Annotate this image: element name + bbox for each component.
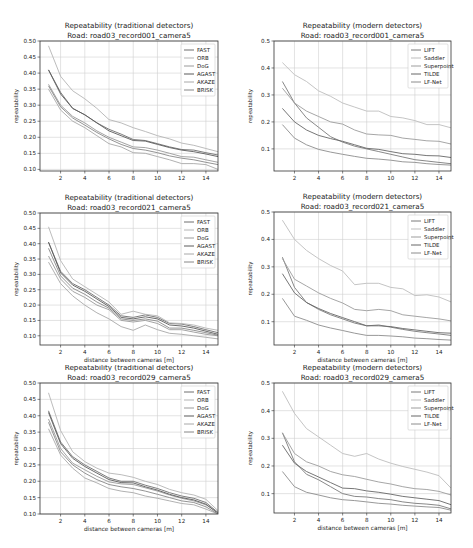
chart-subtitle: Road: road03_record021_camera5 bbox=[301, 202, 425, 211]
x-axis-label: distance between cameras [m] bbox=[84, 357, 174, 363]
legend-entry: LF-Net bbox=[424, 250, 442, 256]
x-tick-label: 12 bbox=[411, 175, 418, 181]
y-tick-label: 0.40 bbox=[24, 70, 37, 76]
x-tick-label: 6 bbox=[341, 349, 345, 355]
legend-entry: TILDE bbox=[423, 413, 440, 419]
legend-entry: TILDE bbox=[423, 242, 440, 248]
y-tick-label: 0.25 bbox=[24, 118, 37, 124]
y-axis-label: repeatability bbox=[13, 261, 20, 296]
legend-entry: DoG bbox=[197, 63, 209, 69]
legend-entry: Saddler bbox=[424, 55, 445, 61]
y-tick-label: 0.1 bbox=[261, 319, 270, 325]
y-tick-label: 0.50 bbox=[24, 210, 37, 216]
chart-title: Repeatability (modern detectors) bbox=[303, 21, 423, 30]
y-tick-label: 0.4 bbox=[261, 236, 270, 242]
x-tick-label: 4 bbox=[83, 175, 87, 181]
y-axis-label: repeatability bbox=[247, 88, 254, 123]
y-tick-label: 0.50 bbox=[24, 38, 37, 44]
legend-entry: AKAZE bbox=[197, 421, 216, 427]
x-tick-label: 12 bbox=[411, 349, 418, 355]
y-tick-label: 0.3 bbox=[261, 92, 270, 98]
x-tick-label: 14 bbox=[435, 175, 443, 181]
legend: LIFTSaddlerSuperpointTILDELF-Net bbox=[408, 215, 454, 259]
y-tick-label: 0.10 bbox=[24, 511, 37, 517]
chart-title: Repeatability (modern detectors) bbox=[303, 192, 423, 201]
y-tick-label: 0.2 bbox=[261, 119, 270, 125]
y-tick-label: 0.20 bbox=[24, 134, 37, 140]
x-tick-label: 2 bbox=[59, 518, 63, 524]
y-tick-label: 0.35 bbox=[24, 86, 37, 92]
y-tick-label: 0.10 bbox=[24, 166, 37, 172]
legend-entry: DoG bbox=[197, 405, 209, 411]
chart-subtitle: Road: road03_record001_camera5 bbox=[301, 31, 425, 40]
y-tick-label: 0.45 bbox=[24, 396, 37, 402]
legend-entry: LF-Net bbox=[424, 79, 442, 85]
chart-svg: Repeatability (traditional detectors)Roa… bbox=[0, 182, 236, 365]
x-tick-label: 12 bbox=[178, 175, 185, 181]
x-tick-label: 2 bbox=[59, 175, 63, 181]
figure-grid: Repeatability (traditional detectors)Roa… bbox=[0, 0, 473, 548]
x-tick-label: 8 bbox=[131, 175, 135, 181]
legend-entry: AKAZE bbox=[197, 251, 216, 257]
x-tick-label: 4 bbox=[317, 517, 321, 523]
x-axis-label: distance between cameras [m] bbox=[84, 526, 174, 532]
legend-entry: LIFT bbox=[424, 47, 436, 53]
legend: FASTORBDoGAGASTAKAZEBRISK bbox=[181, 216, 216, 268]
chart-subtitle: Road: road03_record029_camera5 bbox=[301, 373, 425, 382]
chart-subtitle: Road: road03_record001_camera5 bbox=[67, 31, 191, 40]
x-tick-label: 2 bbox=[293, 517, 297, 523]
y-tick-label: 0.3 bbox=[261, 435, 270, 441]
legend-entry: ORB bbox=[197, 55, 209, 61]
legend: FASTORBDoGAGASTAKAZEBRISK bbox=[181, 386, 216, 438]
x-tick-label: 6 bbox=[341, 175, 345, 181]
chart-svg: Repeatability (traditional detectors)Roa… bbox=[0, 0, 236, 182]
chart-traditional-record001: Repeatability (traditional detectors)Roa… bbox=[0, 0, 236, 182]
legend-entry: ORB bbox=[197, 397, 209, 403]
x-tick-label: 10 bbox=[154, 175, 162, 181]
legend-entry: AGAST bbox=[197, 243, 216, 249]
x-tick-label: 10 bbox=[387, 349, 395, 355]
y-tick-label: 0.2 bbox=[261, 463, 270, 469]
y-tick-label: 0.3 bbox=[261, 264, 270, 270]
legend-entry: ORB bbox=[197, 227, 209, 233]
x-tick-label: 6 bbox=[107, 175, 111, 181]
x-tick-label: 8 bbox=[365, 349, 369, 355]
x-tick-label: 10 bbox=[154, 518, 162, 524]
legend: LIFTSaddlerSuperpointTILDELF-Net bbox=[408, 386, 454, 430]
y-tick-label: 0.1 bbox=[261, 146, 270, 152]
y-tick-label: 0.40 bbox=[24, 241, 37, 247]
legend-entry: DoG bbox=[197, 235, 209, 241]
y-tick-label: 0.20 bbox=[24, 302, 37, 308]
x-tick-label: 14 bbox=[202, 518, 210, 524]
y-tick-label: 0.4 bbox=[261, 65, 270, 71]
x-tick-label: 14 bbox=[435, 349, 443, 355]
x-tick-label: 2 bbox=[59, 349, 63, 355]
legend-entry: LF-Net bbox=[424, 421, 442, 427]
chart-title: Repeatability (traditional detectors) bbox=[65, 365, 194, 372]
chart-title: Repeatability (traditional detectors) bbox=[65, 193, 194, 202]
x-tick-label: 6 bbox=[107, 349, 111, 355]
x-tick-label: 2 bbox=[293, 349, 297, 355]
legend-entry: FAST bbox=[197, 389, 211, 395]
y-tick-label: 0.4 bbox=[261, 408, 270, 414]
x-tick-label: 14 bbox=[202, 349, 210, 355]
legend-entry: FAST bbox=[197, 47, 211, 53]
chart-modern-record029: Repeatability (modern detectors)Road: ro… bbox=[236, 365, 473, 548]
x-tick-label: 10 bbox=[387, 175, 395, 181]
y-tick-label: 0.25 bbox=[24, 287, 37, 293]
x-tick-label: 6 bbox=[107, 518, 111, 524]
x-tick-label: 4 bbox=[317, 349, 321, 355]
legend-entry: Superpoint bbox=[424, 63, 454, 70]
x-tick-label: 8 bbox=[131, 349, 135, 355]
chart-title: Repeatability (modern detectors) bbox=[303, 365, 423, 372]
y-tick-label: 0.35 bbox=[24, 256, 37, 262]
y-axis-label: repeatability bbox=[13, 88, 20, 123]
x-tick-label: 12 bbox=[411, 517, 418, 523]
y-tick-label: 0.45 bbox=[24, 54, 37, 60]
y-tick-label: 0.45 bbox=[24, 225, 37, 231]
legend-entry: LIFT bbox=[424, 218, 436, 224]
y-tick-label: 0.5 bbox=[261, 38, 270, 44]
y-axis-label: repeatability bbox=[247, 261, 254, 296]
chart-traditional-record021: Repeatability (traditional detectors)Roa… bbox=[0, 182, 236, 365]
x-tick-label: 6 bbox=[341, 517, 345, 523]
